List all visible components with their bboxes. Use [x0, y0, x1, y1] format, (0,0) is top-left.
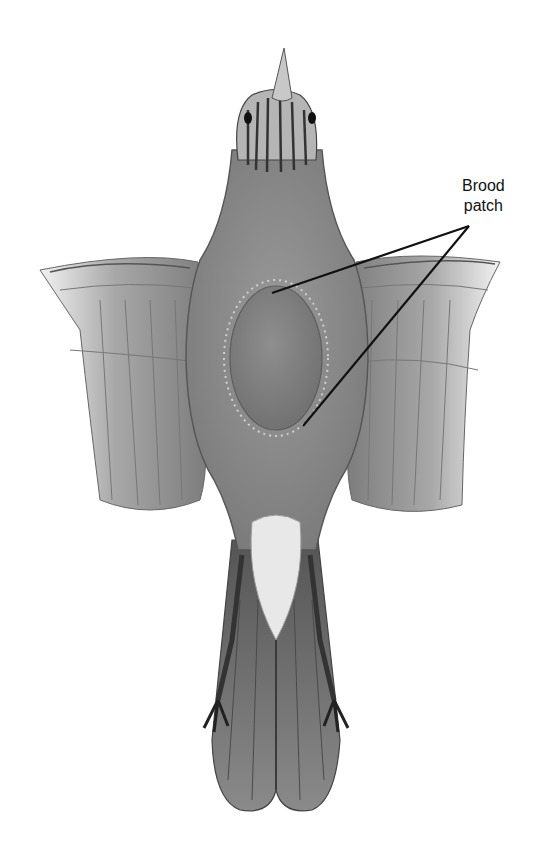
bird-illustration: Brood patch	[0, 0, 554, 848]
label-line-2: patch	[462, 196, 505, 216]
label-line-1: Brood	[462, 176, 505, 196]
bird-drawing	[0, 0, 554, 848]
right-wing	[347, 256, 500, 511]
head	[237, 48, 317, 172]
beak	[272, 48, 292, 101]
right-eye	[308, 112, 316, 124]
left-eye	[244, 112, 252, 124]
left-wing	[40, 258, 206, 511]
brood-patch-label: Brood patch	[462, 176, 505, 216]
